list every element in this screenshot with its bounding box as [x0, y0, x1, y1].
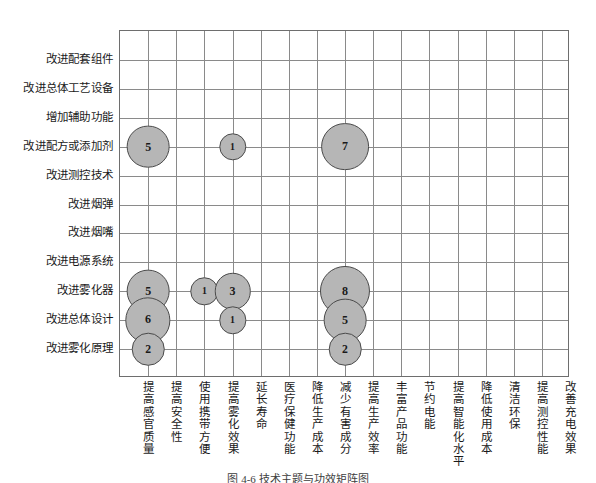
- x-axis-label: 提高安全性: [168, 381, 182, 443]
- gridline-vertical: [542, 31, 543, 376]
- gridline-horizontal: [120, 89, 568, 90]
- gridline-vertical: [486, 31, 487, 376]
- gridline-vertical: [261, 31, 262, 376]
- x-axis-label: 节约电能: [421, 381, 435, 431]
- gridline-horizontal: [120, 176, 568, 177]
- gridline-horizontal: [120, 60, 568, 61]
- x-axis-label: 延长寿命: [253, 381, 267, 431]
- x-axis-label: 医疗保健功能: [281, 381, 295, 455]
- gridline-horizontal: [120, 205, 568, 206]
- x-axis-label: 使用携带方便: [196, 381, 210, 455]
- bubble-data-point: 2: [329, 333, 362, 366]
- x-axis-label: 改善充电效果: [562, 381, 576, 455]
- x-axis-label: 提高感官质量: [140, 381, 154, 455]
- x-axis-label: 提高智能化水平: [450, 381, 464, 468]
- gridline-vertical: [204, 31, 205, 376]
- y-axis-label: 改进烟嘴: [68, 226, 113, 238]
- bubble-matrix-chart: 改进配套组件改进总体工艺设备增加辅助功能改进配方或添加剂改进测控技术改进烟弹改进…: [0, 0, 596, 483]
- y-axis-label: 改进雾化器: [57, 284, 113, 296]
- gridline-vertical: [429, 31, 430, 376]
- x-axis-label: 清洁环保: [506, 381, 520, 431]
- bubble-data-point: 5: [127, 125, 170, 168]
- y-axis-label: 改进配套组件: [46, 53, 113, 65]
- gridline-horizontal: [120, 233, 568, 234]
- y-axis-label: 改进配方或添加剂: [23, 140, 113, 152]
- y-axis-label: 增加辅助功能: [46, 111, 113, 123]
- x-axis-label: 降低使用成本: [478, 381, 492, 455]
- gridline-horizontal: [120, 262, 568, 263]
- y-axis-label: 改进总体设计: [46, 313, 113, 325]
- x-axis-label: 提高测控性能: [534, 381, 548, 455]
- y-axis-label: 改进雾化原理: [46, 342, 113, 354]
- x-axis-label: 降低生产成本: [309, 381, 323, 455]
- y-axis-label: 改进总体工艺设备: [23, 82, 113, 94]
- x-axis-label-group: 提高感官质量提高安全性使用携带方便提高雾化效果延长寿命医疗保健功能降低生产成本减…: [119, 381, 569, 481]
- x-axis-label: 丰富产品功能: [393, 381, 407, 455]
- x-axis-label: 提高雾化效果: [225, 381, 239, 455]
- plot-area: 517513861522: [119, 30, 569, 377]
- y-axis-label-group: 改进配套组件改进总体工艺设备增加辅助功能改进配方或添加剂改进测控技术改进烟弹改进…: [0, 30, 113, 377]
- figure-caption: 图 4-6 技术主题与功效矩阵图: [0, 470, 596, 483]
- gridline-vertical: [176, 31, 177, 376]
- y-axis-label: 改进测控技术: [46, 169, 113, 181]
- bubble-data-point: 1: [219, 133, 246, 160]
- y-axis-label: 改进烟弹: [68, 198, 113, 210]
- gridline-vertical: [401, 31, 402, 376]
- y-axis-label: 改进电源系统: [46, 255, 113, 267]
- x-axis-label: 提高生产效率: [365, 381, 379, 455]
- gridline-vertical: [289, 31, 290, 376]
- x-axis-label: 减少有害成分: [337, 381, 351, 455]
- gridline-vertical: [458, 31, 459, 376]
- gridline-vertical: [317, 31, 318, 376]
- bubble-data-point: 7: [321, 123, 369, 171]
- gridline-vertical: [373, 31, 374, 376]
- bubble-data-point: 3: [214, 273, 250, 309]
- gridline-horizontal: [120, 118, 568, 119]
- bubble-data-point: 2: [132, 333, 165, 366]
- bubble-data-point: 1: [219, 306, 246, 333]
- gridline-vertical: [514, 31, 515, 376]
